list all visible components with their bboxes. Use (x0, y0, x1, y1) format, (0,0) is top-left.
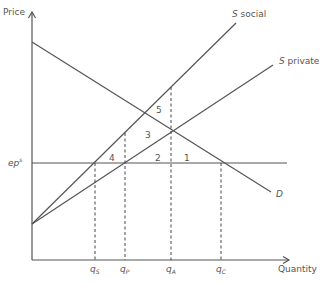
s-social-curve (32, 23, 236, 224)
demand-curve (32, 42, 271, 192)
price-line-label: eps (8, 156, 22, 168)
qp-label: qP (120, 264, 130, 275)
qa-label: qA (166, 264, 176, 275)
qs-label: qS (90, 264, 100, 275)
x-axis (32, 257, 289, 264)
s-social-label: S social (232, 9, 266, 19)
region-5: 5 (156, 105, 162, 115)
y-axis-label: Price (3, 7, 25, 17)
x-axis-label: Quantity (278, 264, 318, 274)
demand-label: D (276, 189, 283, 199)
qc-label: qC (216, 264, 227, 275)
s-private-label: S private (279, 56, 320, 66)
region-1: 1 (184, 153, 190, 163)
region-4: 4 (109, 153, 115, 163)
region-3: 3 (145, 130, 151, 140)
supply-demand-diagram: Price Quantity eps D S social S private … (0, 0, 324, 284)
s-private-curve (32, 65, 273, 224)
region-2: 2 (155, 153, 161, 163)
